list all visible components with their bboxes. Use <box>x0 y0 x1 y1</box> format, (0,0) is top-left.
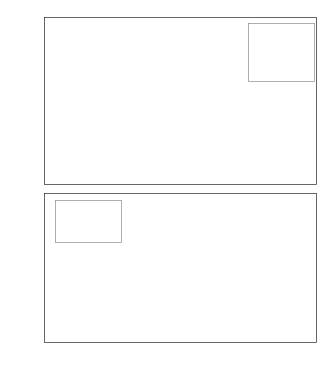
top-legend <box>249 24 315 82</box>
plot-canvas <box>0 0 328 388</box>
bottom-subplot <box>45 194 317 343</box>
bottom-legend <box>56 201 122 243</box>
bottom-legend-box <box>56 201 122 243</box>
top-subplot <box>45 18 317 185</box>
top-legend-box <box>249 24 315 82</box>
figure-container <box>0 0 328 388</box>
